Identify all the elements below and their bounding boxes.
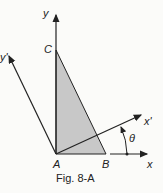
point-b-label: B: [102, 159, 109, 170]
x-axis-label: x: [147, 159, 153, 170]
y-prime-axis: [9, 56, 56, 154]
y-prime-axis-label: y': [0, 52, 8, 63]
diagram-canvas: [0, 0, 163, 193]
theta-arc-dot: [126, 153, 129, 156]
x-prime-axis-label: x': [144, 116, 152, 127]
y-axis-label: y: [43, 8, 49, 19]
point-a-label: A: [53, 159, 60, 170]
figure-caption: Fig. 8-A: [56, 172, 95, 184]
point-c-label: C: [44, 44, 52, 55]
theta-arc: [121, 127, 127, 154]
triangle-abc: [56, 50, 106, 154]
theta-label: θ: [129, 133, 135, 144]
